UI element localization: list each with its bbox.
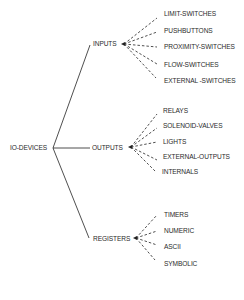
node-outputs: OUTPUTS: [92, 144, 123, 152]
leaf-symbolic: SYMBOLIC: [164, 260, 197, 268]
leaf-lights: LIGHTS: [163, 138, 186, 146]
registers-arrow-icon: [133, 236, 137, 240]
leaf-pushbuttons: PUSHBUTTONS: [164, 27, 213, 35]
leaf-external-outputs: EXTERNAL-OUTPUTS: [163, 153, 230, 161]
node-inputs: INPUTS: [93, 40, 117, 48]
leaf-flow-switches: FLOW-SWITCHES: [164, 61, 219, 69]
outputs-branches: [131, 114, 157, 172]
outputs-arrow-icon: [128, 145, 132, 149]
inputs-branches: [124, 18, 157, 78]
registers-branches: [136, 215, 157, 260]
leaf-internals: INTERNALS: [162, 168, 198, 176]
leaf-relays: RELAYS: [163, 107, 188, 115]
leaf-solenoid-valves: SOLENOID-VALVES: [163, 122, 222, 130]
leaf-timers: TIMERS: [164, 211, 188, 219]
leaf-external-switches: EXTERNAL -SWITCHES: [164, 77, 236, 85]
root-branches: [53, 45, 90, 238]
inputs-arrow-icon: [121, 42, 125, 46]
leaf-numeric: NUMERIC: [164, 227, 194, 235]
node-io-devices: IO-DEVICES: [10, 144, 47, 152]
leaf-ascii: ASCII: [164, 243, 181, 251]
leaf-proximity-switches: PROXIMITY-SWITCHES: [164, 43, 235, 51]
node-registers: REGISTERS: [93, 235, 130, 243]
leaf-limit-switches: LIMIT-SWITCHES: [164, 10, 216, 18]
